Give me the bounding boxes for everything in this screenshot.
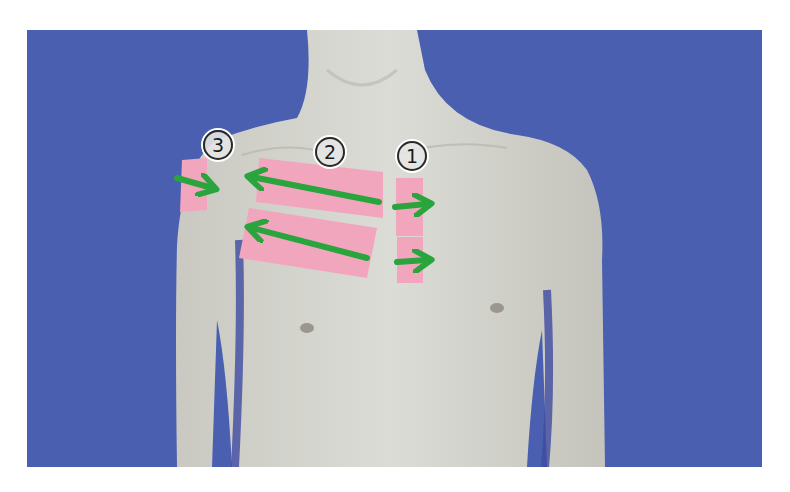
label-1: 1 [397,141,427,171]
left-nipple [300,323,314,333]
torso-photo: 3 2 1 [27,30,762,467]
arrow-1-upper [395,204,427,207]
right-arm-gap [545,290,549,467]
label-3: 3 [203,130,233,160]
arrow-1-lower [397,260,427,262]
right-nipple [490,303,504,313]
label-2: 2 [315,137,345,167]
torso-illustration [27,30,762,467]
